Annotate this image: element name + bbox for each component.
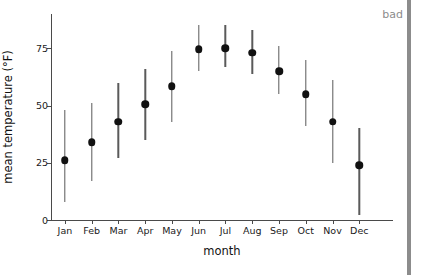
y-axis-title: mean temperature (°F) bbox=[0, 14, 16, 220]
x-tick-label-feb: Feb bbox=[83, 226, 100, 236]
data-point-jul bbox=[222, 45, 230, 53]
y-tick-label: 25 bbox=[36, 159, 48, 169]
data-point-jan bbox=[61, 157, 69, 165]
data-point-apr bbox=[141, 101, 149, 109]
x-tick-label-jan: Jan bbox=[58, 226, 73, 236]
data-point-feb bbox=[88, 138, 96, 146]
data-point-sep bbox=[275, 67, 283, 75]
x-tick-mark-jul bbox=[225, 220, 226, 224]
data-point-oct bbox=[302, 90, 310, 98]
y-tick-label: 50 bbox=[36, 101, 48, 111]
x-tick-label-sep: Sep bbox=[270, 226, 288, 236]
x-tick-mark-aug bbox=[252, 220, 253, 224]
x-tick-mark-feb bbox=[92, 220, 93, 224]
data-point-jun bbox=[195, 46, 203, 54]
x-tick-mark-may bbox=[172, 220, 173, 224]
y-axis-line bbox=[51, 14, 52, 220]
data-point-nov bbox=[329, 118, 337, 126]
x-tick-label-mar: Mar bbox=[109, 226, 127, 236]
x-tick-label-dec: Dec bbox=[350, 226, 368, 236]
data-point-aug bbox=[248, 49, 256, 57]
error-bar-dec bbox=[359, 128, 360, 215]
bad-annotation-label: bad bbox=[382, 9, 403, 20]
x-tick-label-aug: Aug bbox=[243, 226, 262, 236]
x-tick-mark-apr bbox=[145, 220, 146, 224]
data-point-mar bbox=[115, 118, 123, 126]
data-point-may bbox=[168, 82, 176, 90]
x-axis-title: month bbox=[51, 246, 393, 258]
x-tick-mark-nov bbox=[333, 220, 334, 224]
x-tick-label-may: May bbox=[162, 226, 182, 236]
x-tick-mark-jan bbox=[65, 220, 66, 224]
x-tick-mark-jun bbox=[199, 220, 200, 224]
x-axis-line bbox=[51, 220, 393, 221]
chart-figure: 0255075 JanFebMarAprMayJunJulAugSepOctNo… bbox=[0, 0, 422, 275]
y-tick-label: 0 bbox=[42, 216, 48, 226]
x-tick-mark-mar bbox=[118, 220, 119, 224]
x-tick-label-apr: Apr bbox=[137, 226, 153, 236]
x-tick-label-nov: Nov bbox=[323, 226, 342, 236]
x-tick-label-jun: Jun bbox=[191, 226, 206, 236]
x-tick-label-oct: Oct bbox=[298, 226, 314, 236]
bad-annotation-bar bbox=[407, 0, 411, 275]
x-tick-mark-dec bbox=[359, 220, 360, 224]
x-tick-mark-oct bbox=[306, 220, 307, 224]
data-point-dec bbox=[356, 161, 364, 169]
plot-area: 0255075 JanFebMarAprMayJunJulAugSepOctNo… bbox=[51, 14, 393, 220]
x-tick-mark-sep bbox=[279, 220, 280, 224]
y-tick-label: 75 bbox=[36, 44, 48, 54]
x-tick-label-jul: Jul bbox=[220, 226, 231, 236]
